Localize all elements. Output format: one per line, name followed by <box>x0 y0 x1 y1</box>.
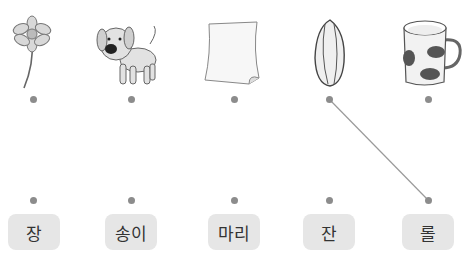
flower-icon[interactable] <box>10 14 54 90</box>
word-dot-rol[interactable] <box>425 197 432 204</box>
paper-icon[interactable] <box>203 20 263 86</box>
picture-dot-paper[interactable] <box>231 96 238 103</box>
seed-icon[interactable] <box>312 18 348 88</box>
word-box-jang[interactable]: 장 <box>8 214 60 250</box>
picture-dot-flower[interactable] <box>30 96 37 103</box>
mug-icon[interactable] <box>400 18 466 88</box>
picture-dot-mug[interactable] <box>425 96 432 103</box>
connection-line <box>329 99 428 200</box>
word-dot-jang[interactable] <box>30 197 37 204</box>
word-box-rol[interactable]: 롤 <box>402 214 454 250</box>
word-dot-songi[interactable] <box>128 197 135 204</box>
picture-dot-dog[interactable] <box>128 96 135 103</box>
word-box-mari[interactable]: 마리 <box>208 214 260 250</box>
picture-dot-seed[interactable] <box>326 96 333 103</box>
dog-icon[interactable] <box>96 22 164 88</box>
word-box-jan[interactable]: 잔 <box>303 214 355 250</box>
word-dot-jan[interactable] <box>326 197 333 204</box>
word-box-songi[interactable]: 송이 <box>105 214 157 250</box>
word-dot-mari[interactable] <box>231 197 238 204</box>
